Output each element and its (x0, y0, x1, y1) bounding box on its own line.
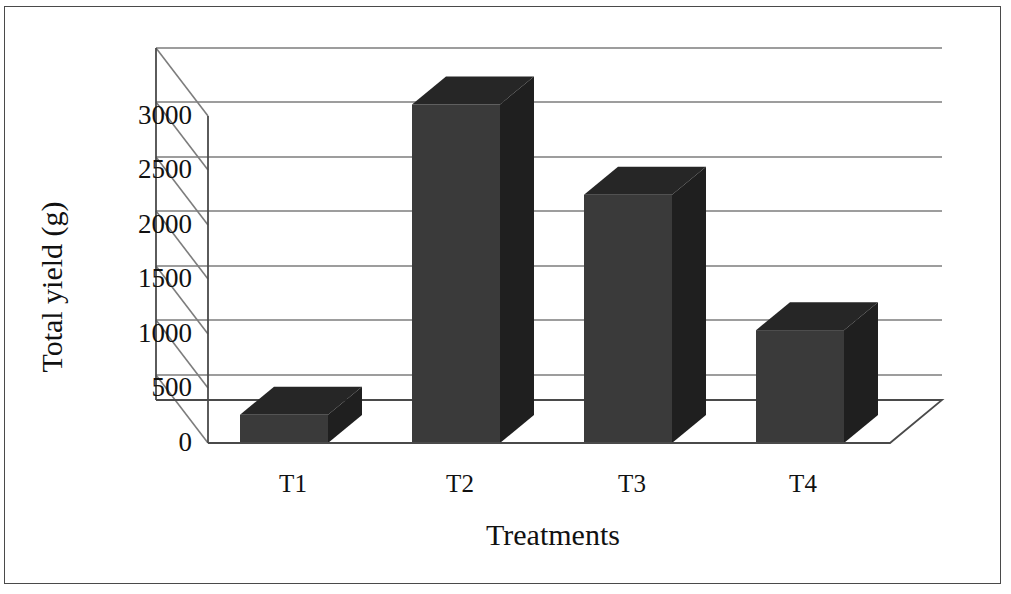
x-axis-title: Treatments (393, 518, 713, 552)
bar-T1[interactable] (240, 387, 362, 443)
xtick-label-T2: T2 (400, 470, 520, 498)
bar-T2-face (412, 104, 500, 443)
ytick-label-1500: 1500 (82, 263, 192, 294)
ytick-label-1000: 1000 (82, 318, 192, 349)
xtick-label-T4: T4 (743, 470, 863, 498)
xtick-label-T3: T3 (572, 470, 692, 498)
ytick-label-0: 0 (82, 427, 192, 458)
ytick-label-2000: 2000 (82, 209, 192, 240)
bar-chart-3d (0, 0, 1011, 594)
xtick-label-T1: T1 (233, 470, 353, 498)
bar-T2[interactable] (412, 76, 534, 443)
bar-T4[interactable] (756, 302, 878, 443)
bar-T3-side (672, 167, 706, 443)
bar-T2-side (500, 76, 534, 443)
bar-T1-face (240, 415, 328, 443)
bar-T3-face (584, 195, 672, 443)
ytick-label-2500: 2500 (82, 154, 192, 185)
ytick-label-500: 500 (82, 372, 192, 403)
y-axis-title: Total yield (g) (35, 157, 69, 417)
bar-T4-face (756, 330, 844, 443)
ytick-label-3000: 3000 (82, 100, 192, 131)
bar-T3[interactable] (584, 167, 706, 443)
